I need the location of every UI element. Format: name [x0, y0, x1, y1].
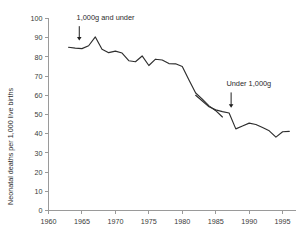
series-line: [196, 95, 290, 137]
chart-container: Neonatal deaths per 1,000 live births 01…: [0, 0, 303, 240]
y-axis-tick-labels: 0102030405060708090100: [31, 14, 43, 215]
annotations-group: 1,000g and underUnder 1,000g: [77, 13, 272, 107]
line-chart: Neonatal deaths per 1,000 live births 01…: [0, 0, 303, 240]
y-axis-title: Neonatal deaths per 1,000 live births: [6, 88, 15, 205]
y-axis-title-text: Neonatal deaths per 1,000 live births: [6, 88, 15, 205]
y-tick-label: 0: [39, 206, 43, 215]
y-tick-label: 10: [35, 187, 43, 196]
annotation-1000g-and-under-text: 1,000g and under: [77, 13, 135, 22]
x-tick-label: 1960: [41, 217, 57, 226]
x-tick-label: 1990: [241, 217, 257, 226]
y-tick-label: 90: [35, 33, 43, 42]
y-tick-label: 20: [35, 168, 43, 177]
x-tick-label: 1985: [208, 217, 224, 226]
y-tick-label: 40: [35, 129, 43, 138]
y-tick-label: 100: [31, 14, 43, 23]
annotation-1000g-and-under-arrow-head: [77, 37, 82, 41]
annotation-under-1000g-text: Under 1,000g: [226, 79, 271, 88]
y-tick-label: 60: [35, 91, 43, 100]
x-tick-label: 1995: [275, 217, 291, 226]
y-tick-label: 50: [35, 110, 43, 119]
tick-marks: [45, 19, 282, 214]
x-axis-tick-labels: 19601965197019751980198519901995: [41, 217, 291, 226]
x-tick-label: 1980: [174, 217, 190, 226]
y-tick-label: 80: [35, 53, 43, 62]
series-line: [69, 37, 223, 117]
annotation-under-1000g-arrow-head: [229, 104, 234, 108]
y-tick-label: 70: [35, 72, 43, 81]
x-tick-label: 1965: [74, 217, 90, 226]
x-tick-label: 1975: [141, 217, 157, 226]
y-tick-label: 30: [35, 149, 43, 158]
x-tick-label: 1970: [107, 217, 123, 226]
